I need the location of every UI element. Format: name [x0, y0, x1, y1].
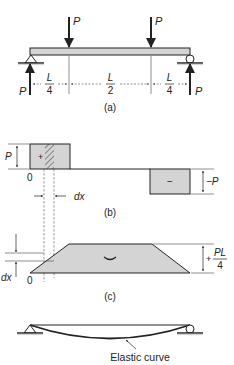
strip-label-c: dx [1, 272, 13, 283]
dim-mid-numerator: L [108, 72, 114, 83]
elastic-curve-label: Elastic curve [110, 351, 170, 363]
right-magnitude-label: −P [206, 176, 219, 187]
pin-support-icon [17, 325, 43, 336]
reaction-label-left: P [19, 85, 27, 97]
beam [30, 48, 190, 55]
left-magnitude-label: P [5, 151, 12, 162]
caption-b: (b) [104, 207, 116, 218]
load-label-right: P [155, 15, 163, 27]
shear-strip-hatched [45, 144, 54, 169]
strip-width-label: dx [74, 191, 86, 202]
dim-right-denominator: 4 [167, 85, 173, 96]
leader-arrow-icon [126, 340, 136, 349]
caption-a: (a) [104, 102, 116, 113]
caption-c: (c) [104, 291, 116, 302]
origin-label-c: 0 [27, 275, 33, 286]
positive-sign: + [38, 152, 43, 162]
dim-right-numerator: L [167, 72, 173, 83]
moment-sign: + [206, 254, 211, 264]
max-moment-denominator: 4 [217, 260, 223, 271]
dim-left-numerator: L [47, 72, 53, 83]
max-moment-numerator: PL [214, 247, 226, 258]
figure-d-elastic-curve: Elastic curve [17, 325, 203, 363]
beam-diagram: P P P P L [0, 0, 234, 365]
load-label-left: P [73, 15, 81, 27]
negative-sign: − [167, 176, 173, 187]
dim-mid-denominator: 2 [108, 85, 114, 96]
figure-c-moment-diagram: dx 0 + PL 4 (c) [1, 234, 227, 302]
roller-support-icon [177, 325, 203, 336]
moment-trapezoid [30, 244, 190, 273]
origin-label-b: 0 [27, 172, 33, 183]
dim-left-denominator: 4 [47, 85, 53, 96]
reaction-label-right: P [195, 85, 203, 97]
elastic-curve-line [30, 325, 190, 339]
figure-a-loaded-beam: P P P P L [18, 15, 203, 113]
